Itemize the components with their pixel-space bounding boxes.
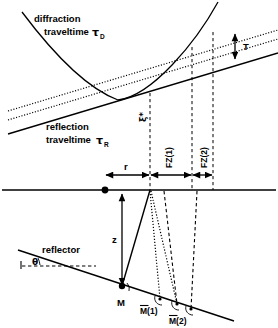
fz2-ray-left: [164, 191, 177, 304]
reflection-tau-symbol: τ: [96, 134, 103, 147]
reflection-tau-subscript: R: [104, 141, 109, 148]
fz1-label: FZ(1): [164, 147, 174, 168]
reflector-line: [18, 250, 234, 321]
diffraction-label-line2: traveltime: [44, 26, 89, 37]
xi-star-label: ξ*: [138, 112, 148, 122]
diffraction-tau-symbol: τ: [92, 26, 99, 39]
source-receiver-dot: [102, 187, 109, 194]
offset-r-label: r: [124, 161, 128, 172]
dip-angle-arc: [38, 258, 40, 265]
point-m1-label: M(1): [140, 306, 158, 316]
diffraction-tau-subscript: D: [100, 33, 105, 40]
reflection-plus-half-period-line: [8, 39, 278, 120]
period-label: T: [243, 41, 249, 52]
reflector-label: reflector: [42, 244, 80, 255]
point-m2-label: M(2): [169, 316, 187, 326]
fz2-label: FZ(2): [199, 147, 209, 168]
normal-ray-path: [122, 190, 150, 286]
reflection-point-m-dot: [119, 283, 125, 289]
reflection-point-m1b-dot: [175, 302, 178, 305]
reflection-plus-period-line: [8, 30, 278, 111]
diagram-canvas: diffraction traveltime τ D reflection tr…: [0, 0, 278, 328]
fz2-ray-right: [191, 191, 197, 309]
diffraction-label-line1: diffraction: [34, 13, 81, 24]
figure-root: diffraction traveltime τ D reflection tr…: [0, 0, 278, 328]
reflection-point-m1-dot: [158, 297, 161, 300]
reflection-label-line1: reflection: [46, 121, 89, 132]
reflection-point-m2-dot: [189, 307, 192, 310]
depth-z-label: z: [112, 234, 117, 245]
reflection-label-line2: traveltime: [46, 134, 91, 145]
dip-angle-label: θ: [32, 257, 38, 267]
point-m-label: M: [117, 297, 125, 308]
fz1-ray-right: [151, 191, 177, 304]
right-angle-arc-m: [127, 283, 129, 291]
fz1-ray-left: [150, 191, 160, 299]
